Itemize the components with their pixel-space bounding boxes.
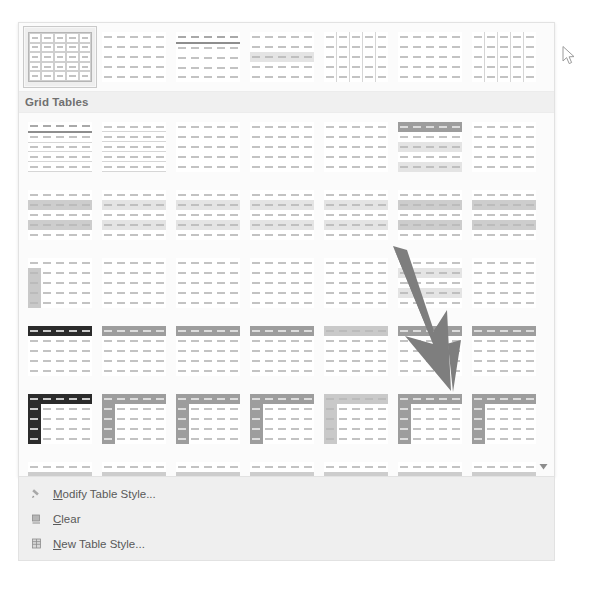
table-styles-gallery[interactable]: Grid Tables: [18, 22, 555, 477]
table-style-thumbnail[interactable]: [97, 26, 171, 88]
table-style-thumbnail[interactable]: [23, 116, 97, 178]
preview-cell: [485, 142, 498, 152]
preview-cell: [115, 42, 128, 52]
preview-cell: [301, 346, 314, 356]
preview-cell: [250, 414, 263, 424]
preview-cell: [153, 162, 166, 171]
preview-cell: [189, 366, 202, 376]
scroll-down-arrow-icon[interactable]: [537, 460, 550, 473]
preview-cell: [128, 62, 141, 72]
preview-cell: [102, 190, 115, 200]
table-style-thumbnail[interactable]: [393, 184, 467, 246]
table-style-thumbnail[interactable]: [171, 320, 245, 382]
preview-cell: [202, 336, 215, 346]
table-style-thumbnail[interactable]: [393, 116, 467, 178]
table-style-thumbnail[interactable]: [171, 456, 245, 477]
table-style-thumbnail[interactable]: [319, 116, 393, 178]
table-style-thumbnail[interactable]: [393, 388, 467, 450]
table-style-thumbnail[interactable]: [171, 252, 245, 314]
table-style-thumbnail[interactable]: [467, 26, 541, 88]
preview-cell: [498, 434, 511, 444]
preview-cell: [54, 434, 67, 444]
table-style-thumbnail[interactable]: [23, 320, 97, 382]
table-style-thumbnail[interactable]: [97, 320, 171, 382]
preview-cell: [288, 414, 301, 424]
table-style-thumbnail[interactable]: [97, 388, 171, 450]
command-item-new-table-style[interactable]: New Table Style...: [19, 531, 554, 556]
preview-cell: [510, 190, 523, 200]
table-style-thumbnail[interactable]: [319, 26, 393, 88]
preview-cell: [498, 152, 511, 162]
preview-cell: [350, 404, 363, 414]
preview-cell: [189, 346, 202, 356]
preview-row: [102, 200, 166, 210]
preview-cell: [449, 278, 462, 288]
table-style-thumbnail[interactable]: [467, 116, 541, 178]
table-style-thumbnail[interactable]: [245, 26, 319, 88]
table-style-thumbnail[interactable]: [319, 456, 393, 477]
table-style-thumbnail[interactable]: [97, 116, 171, 178]
table-style-thumbnail[interactable]: [319, 252, 393, 314]
table-style-thumbnail[interactable]: [171, 116, 245, 178]
table-style-thumbnail[interactable]: [23, 388, 97, 450]
preview-cell: [375, 288, 388, 298]
table-style-thumbnail[interactable]: [23, 26, 97, 88]
command-item-modify-table-style[interactable]: Modify Table Style...: [19, 481, 554, 506]
table-style-thumbnail[interactable]: [171, 388, 245, 450]
preview-cell: [153, 52, 166, 62]
command-item-clear[interactable]: Clear: [19, 506, 554, 531]
preview-cell: [214, 132, 227, 142]
table-style-thumbnail[interactable]: [393, 26, 467, 88]
preview-cell: [202, 220, 215, 230]
preview-cell: [54, 43, 66, 53]
table-style-thumbnail[interactable]: [97, 456, 171, 477]
table-style-thumbnail[interactable]: [245, 252, 319, 314]
preview-cell: [66, 152, 79, 161]
table-style-thumbnail[interactable]: [171, 184, 245, 246]
table-style-thumbnail[interactable]: [467, 320, 541, 382]
preview-cell: [337, 200, 350, 210]
preview-cell: [498, 424, 511, 434]
table-style-thumbnail[interactable]: [23, 456, 97, 477]
preview-cell: [176, 268, 189, 278]
preview-cell: [301, 424, 314, 434]
preview-cell: [424, 190, 437, 200]
preview-cell: [424, 278, 437, 288]
preview-cell: [510, 346, 523, 356]
table-style-thumbnail[interactable]: [23, 184, 97, 246]
preview-cell: [140, 210, 153, 220]
preview-cell: [436, 72, 449, 82]
table-style-thumbnail[interactable]: [171, 26, 245, 88]
table-style-thumbnail[interactable]: [97, 252, 171, 314]
table-style-thumbnail[interactable]: [467, 252, 541, 314]
table-style-thumbnail[interactable]: [245, 320, 319, 382]
table-style-thumbnail[interactable]: [23, 252, 97, 314]
table-style-thumbnail[interactable]: [97, 184, 171, 246]
table-style-thumbnail[interactable]: [319, 388, 393, 450]
preview-cell: [449, 404, 462, 414]
preview-row: [28, 414, 92, 424]
preview-cell: [411, 336, 424, 346]
table-style-thumbnail[interactable]: [245, 388, 319, 450]
preview-cell: [250, 62, 263, 72]
table-style-thumbnail[interactable]: [245, 184, 319, 246]
preview-row: [472, 366, 536, 376]
table-style-thumbnail[interactable]: [467, 184, 541, 246]
preview-cell: [424, 298, 437, 308]
table-style-thumbnail[interactable]: [393, 252, 467, 314]
table-style-thumbnail[interactable]: [467, 456, 541, 477]
table-style-thumbnail[interactable]: [319, 320, 393, 382]
preview-cell: [250, 142, 263, 152]
table-style-thumbnail[interactable]: [245, 116, 319, 178]
preview-cell: [398, 62, 411, 72]
preview-cell: [510, 132, 523, 142]
table-style-thumbnail[interactable]: [245, 456, 319, 477]
table-style-thumbnail[interactable]: [319, 184, 393, 246]
preview-cell: [324, 424, 337, 434]
preview-cell: [140, 336, 153, 346]
table-style-thumbnail[interactable]: [393, 320, 467, 382]
table-style-thumbnail[interactable]: [393, 456, 467, 477]
preview-cell: [449, 32, 462, 42]
table-style-thumbnail[interactable]: [467, 388, 541, 450]
preview-row: [102, 52, 166, 62]
